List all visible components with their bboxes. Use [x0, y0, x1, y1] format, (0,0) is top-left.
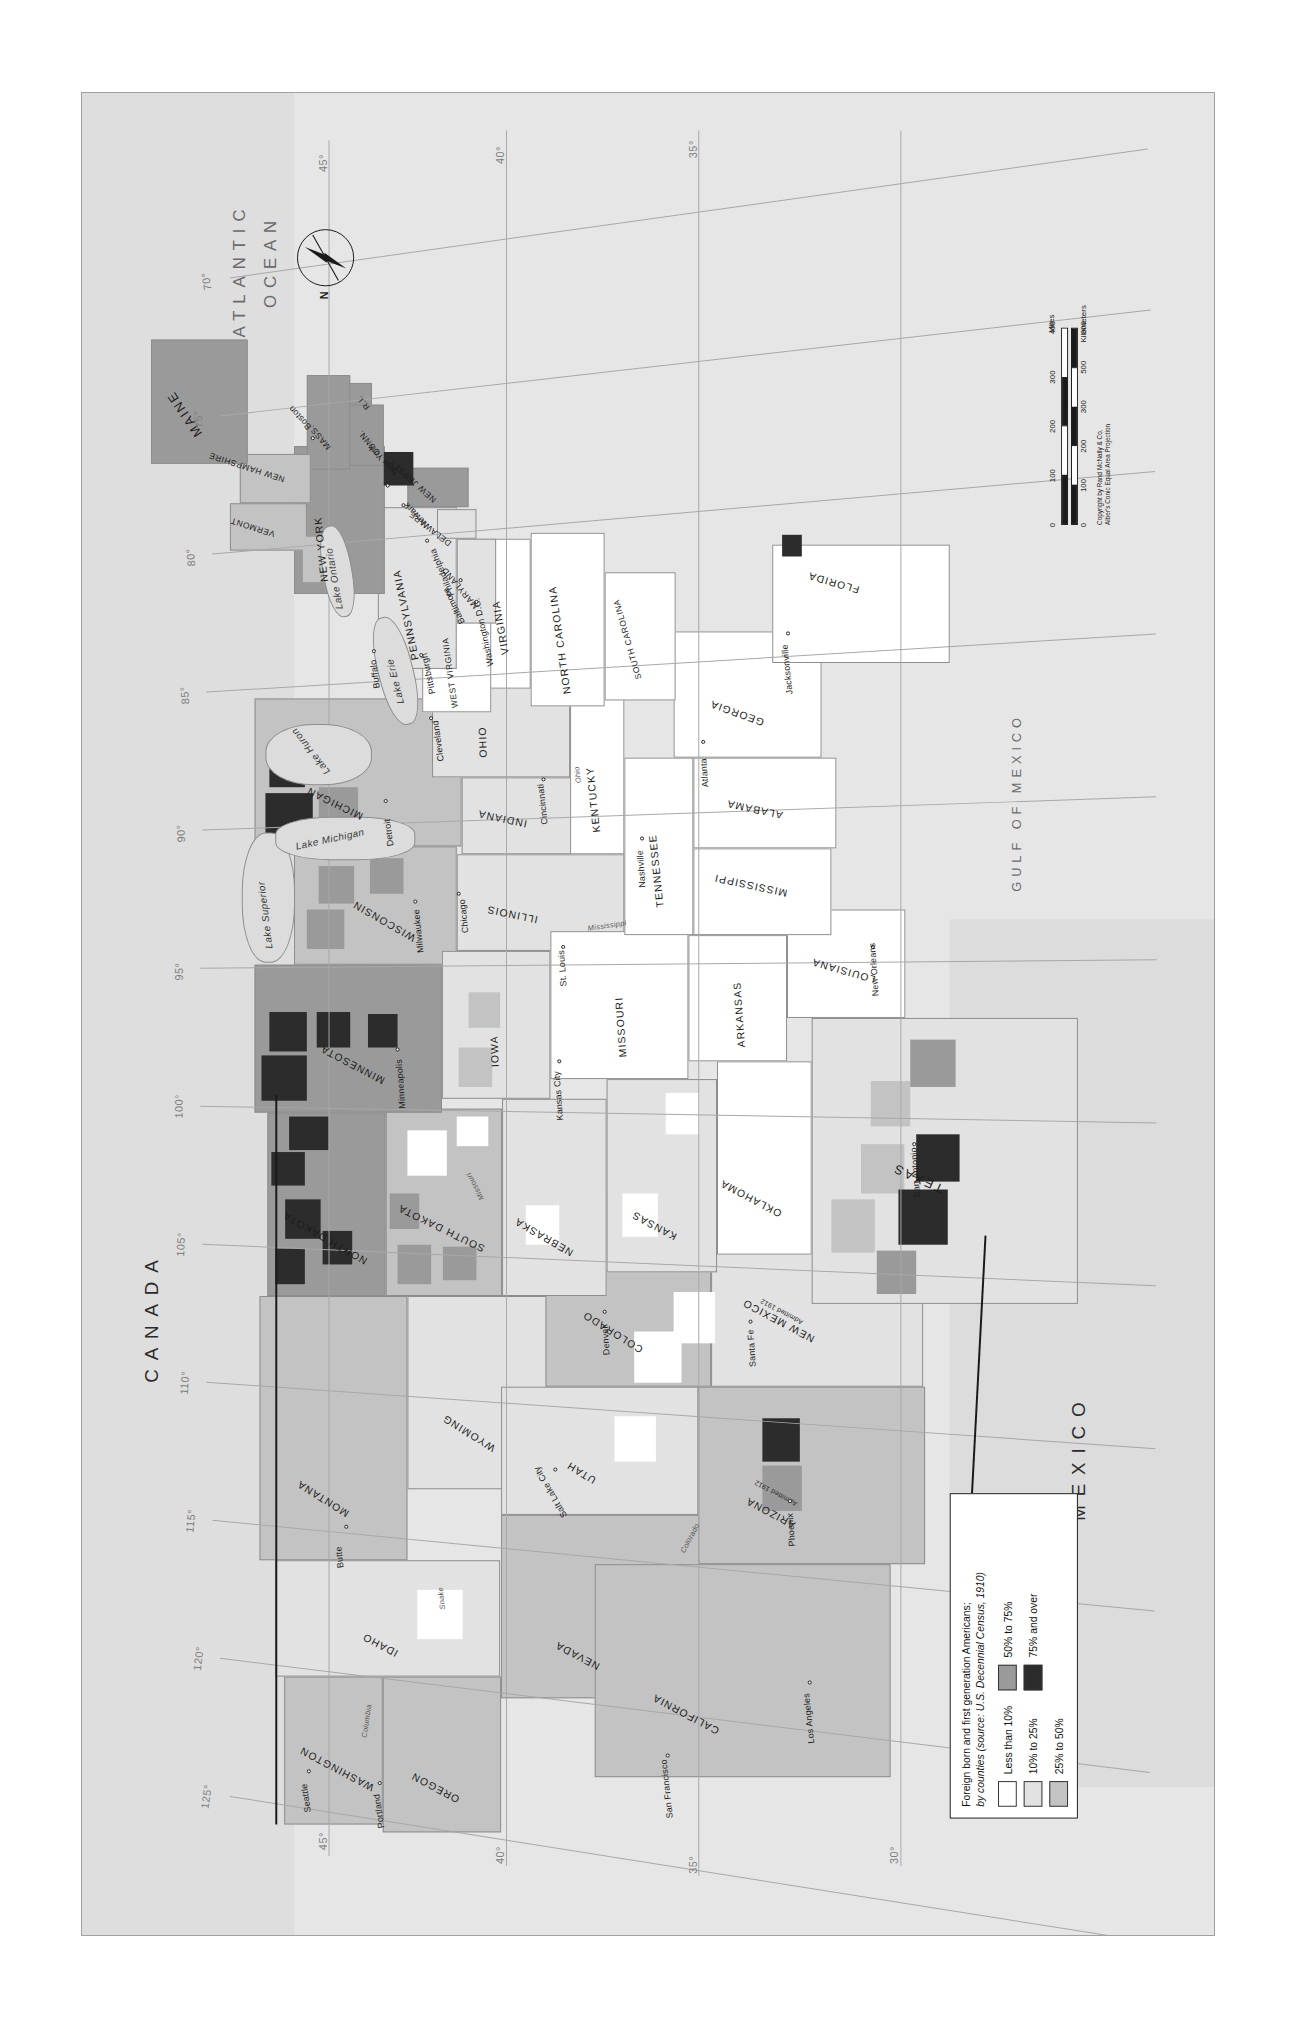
- compass-rose: N: [296, 229, 353, 286]
- graticule-lat-30: [900, 131, 901, 1866]
- legend-label-75-and-over: 75% and over: [1027, 1594, 1039, 1658]
- city-dot-st-louis: [561, 945, 564, 948]
- state-kansas: [606, 1079, 716, 1272]
- city-label-santa-fe: Santa Fe: [745, 1329, 757, 1367]
- river-label-snake: Snake: [435, 1587, 446, 1610]
- scale-km-unit: Kilometers: [1078, 305, 1087, 342]
- graticule-label-lat-35: 35°: [687, 1856, 699, 1874]
- city-dot-buffalo: [371, 650, 374, 653]
- city-dot-santa-fe: [748, 1320, 751, 1323]
- scale-seg: [1071, 367, 1076, 406]
- legend-title: Foreign born and first generation Americ…: [959, 1505, 987, 1807]
- city-dot-minneapolis: [395, 1048, 398, 1051]
- county-block: [316, 1012, 350, 1047]
- city-dot-san-francisco: [665, 1754, 668, 1757]
- county-block: [831, 1199, 874, 1252]
- scale-seg: [1062, 475, 1067, 524]
- map-credit: Copyright by Rand McNally & Co. Alber's …: [1095, 424, 1112, 525]
- graticule-label-lon-80: 80°: [183, 548, 196, 567]
- graticule-label-lon-120: 120°: [191, 1646, 206, 1672]
- ocean-label-gulf-of-mexico: GULF OF MEXICO: [1008, 713, 1023, 892]
- state-south-carolina: [604, 572, 675, 700]
- legend-swatch-10-to-25: [1024, 1781, 1043, 1807]
- legend-rows: Less than 10% 10% to 25% 25% to 50% 50% …: [998, 1505, 1068, 1807]
- city-label-phoenix: Phoenix: [784, 1513, 796, 1547]
- county-block: [318, 866, 353, 903]
- city-dot-los-angeles: [807, 1681, 810, 1684]
- map-legend: Foreign born and first generation Americ…: [949, 1493, 1078, 1818]
- graticule-label-lat-30: 30°: [888, 1846, 900, 1864]
- graticule-label-lon-90: 90°: [174, 824, 186, 842]
- city-dot-atlanta: [701, 740, 704, 743]
- state-oregon: [382, 1677, 500, 1833]
- graticule-lat-35: [698, 131, 699, 1876]
- river-label-ohio: Ohio: [571, 766, 582, 784]
- county-block: [328, 1172, 362, 1215]
- legend-label-25-to-50: 25% to 50%: [1053, 1718, 1065, 1774]
- graticule-label-lon-105: 105°: [174, 1232, 187, 1257]
- city-dot-detroit: [383, 800, 386, 803]
- county-block: [306, 909, 343, 948]
- state-nebraska: [502, 1099, 607, 1296]
- county-block: [504, 1024, 538, 1067]
- credit-projection: Alber's Conic Equal Area Projection: [1104, 424, 1113, 525]
- legend-label-10-to-25: 10% to 25%: [1027, 1718, 1039, 1774]
- county-block: [397, 1245, 431, 1284]
- legend-column-right: 50% to 75% 75% and over: [998, 1594, 1068, 1690]
- scale-miles-tick-200: 200: [1048, 420, 1057, 433]
- county-block: [762, 1418, 799, 1461]
- graticule-label-lat-45-right: 45°: [316, 154, 328, 172]
- ocean-label-atlantic-line2: OCEAN: [261, 214, 281, 308]
- county-block: [275, 1249, 305, 1284]
- graticule-label-lon-85: 85°: [178, 686, 191, 705]
- scale-bar-kilometers: [1070, 328, 1077, 525]
- county-block: [289, 1117, 328, 1151]
- scale-seg: [1062, 377, 1067, 426]
- legend-swatch-75-and-over: [1024, 1664, 1043, 1690]
- city-dot-salt-lake-city: [553, 1468, 556, 1471]
- county-block: [456, 1117, 488, 1147]
- city-dot-phoenix: [788, 1500, 791, 1503]
- country-label-canada: CANADA: [141, 1251, 163, 1382]
- state-oklahoma: [717, 1061, 812, 1254]
- scale-seg: [1062, 426, 1067, 475]
- state-maine: [151, 340, 248, 464]
- legend-title-line2: by counties (source: U.S. Decennial Cens…: [974, 1572, 986, 1807]
- city-dot-seattle: [306, 1770, 309, 1773]
- scale-km-tick-0: 0: [1078, 523, 1087, 527]
- city-dot-nashville: [640, 837, 643, 840]
- county-block: [673, 1292, 714, 1343]
- city-dot-baltimore: [458, 579, 461, 582]
- legend-label-less-than-10: Less than 10%: [1001, 1706, 1013, 1774]
- city-label-butte: Butte: [333, 1546, 345, 1569]
- city-dot-kansas-city: [557, 1060, 560, 1063]
- city-dot-boston: [310, 437, 313, 440]
- state-utah: [501, 1387, 698, 1515]
- graticule-label-lat-40-right: 40°: [494, 146, 506, 164]
- scale-km-ticks: 0 100 200 300 500 800 Kilometers: [1078, 328, 1090, 525]
- city-label-denver: Denver: [599, 1325, 611, 1355]
- compass-north-label: N: [317, 291, 329, 299]
- scale-miles-tick-0: 0: [1048, 523, 1057, 527]
- county-block: [870, 1081, 909, 1126]
- city-dot-chicago: [456, 892, 459, 895]
- legend-item-3: 50% to 75%: [998, 1594, 1017, 1690]
- county-block: [630, 1134, 664, 1173]
- scale-miles-ticks: 0 100 200 300 400 Miles: [1048, 328, 1060, 525]
- border-canada-west: [275, 1095, 277, 1825]
- graticule-label-lat-35-right: 35°: [687, 140, 699, 158]
- scale-miles-tick-100: 100: [1048, 469, 1057, 482]
- legend-swatch-less-than-10: [998, 1781, 1017, 1807]
- state-label-ohio: OHIO: [475, 726, 488, 758]
- county-block: [876, 1251, 915, 1294]
- scale-seg: [1071, 329, 1076, 367]
- legend-title-line1: Foreign born and first generation Americ…: [960, 1602, 972, 1806]
- state-alabama: [693, 758, 836, 849]
- state-arizona: [698, 1387, 925, 1564]
- graticule-label-lon-110: 110°: [177, 1371, 190, 1395]
- scale-seg: [1062, 329, 1067, 377]
- scale-km-tick-100: 100: [1078, 479, 1087, 492]
- city-dot-cincinnati: [541, 778, 544, 781]
- city-dot-portland: [377, 1782, 380, 1785]
- legend-swatch-25-to-50: [1049, 1781, 1068, 1807]
